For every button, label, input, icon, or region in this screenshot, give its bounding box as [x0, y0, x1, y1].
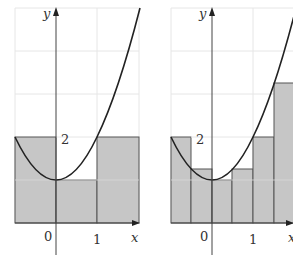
tick-label-1: 1: [93, 232, 101, 247]
rectangles: [171, 83, 293, 223]
rect-4: [232, 169, 253, 223]
right-panel: y x 2 0 1: [171, 6, 293, 255]
rect-2: [56, 180, 97, 223]
left-panel: y x 2 0 1: [15, 6, 140, 255]
tick-label-2: 2: [61, 132, 69, 147]
rect-3: [212, 180, 232, 223]
rect-6: [274, 83, 293, 223]
tick-label-0: 0: [44, 229, 52, 244]
x-axis-label: x: [288, 230, 293, 245]
tick-label-2: 2: [196, 132, 204, 147]
tick-label-0: 0: [200, 229, 208, 244]
y-axis-label: y: [42, 6, 51, 21]
y-axis-label: y: [198, 6, 207, 21]
tick-label-1: 1: [249, 232, 257, 247]
x-axis-label: x: [131, 230, 139, 245]
figure: y x 2 0 1 y x 2 0 1: [0, 0, 293, 255]
